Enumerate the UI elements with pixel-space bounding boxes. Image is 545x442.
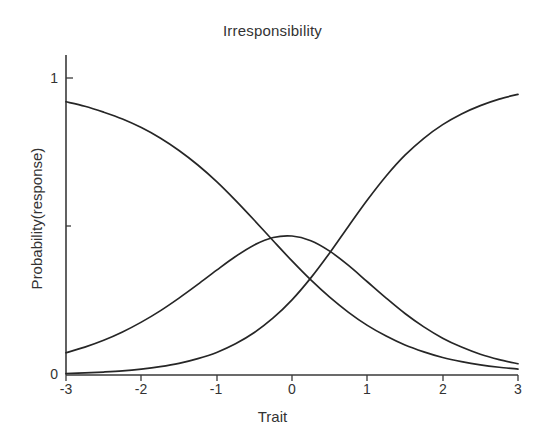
chart-figure: Irresponsibility Probability(response) T… xyxy=(0,0,545,442)
plot-area xyxy=(0,0,545,442)
curve-series-3 xyxy=(66,94,518,373)
curve-group xyxy=(66,94,518,373)
